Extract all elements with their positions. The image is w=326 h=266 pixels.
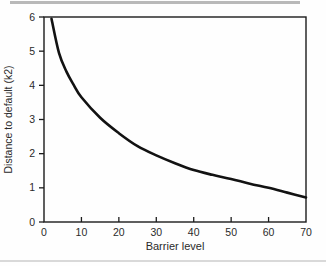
- x-tick-label: 30: [150, 226, 162, 238]
- y-axis-label: Distance to default (k2): [2, 66, 14, 174]
- y-tick-label: 1: [29, 181, 35, 193]
- y-tick-label: 0: [29, 216, 35, 228]
- y-tick-label: 3: [29, 113, 35, 125]
- x-tick-label: 70: [300, 226, 312, 238]
- x-tick-label: 50: [225, 226, 237, 238]
- curve-distance-to-default: [51, 19, 306, 198]
- chart-svg: 0102030405060700123456Barrier levelDista…: [0, 0, 326, 266]
- x-tick-label: 60: [263, 226, 275, 238]
- x-tick-label: 0: [41, 226, 47, 238]
- chart-container: 0102030405060700123456Barrier levelDista…: [0, 0, 326, 266]
- page: 0102030405060700123456Barrier levelDista…: [0, 0, 326, 266]
- x-axis-label: Barrier level: [146, 240, 205, 252]
- x-tick-label: 40: [188, 226, 200, 238]
- y-tick-label: 4: [29, 79, 35, 91]
- y-tick-label: 6: [29, 11, 35, 23]
- plot-frame: [44, 17, 306, 222]
- x-tick-label: 10: [76, 226, 88, 238]
- y-tick-label: 5: [29, 45, 35, 57]
- x-tick-label: 20: [113, 226, 125, 238]
- y-tick-label: 2: [29, 147, 35, 159]
